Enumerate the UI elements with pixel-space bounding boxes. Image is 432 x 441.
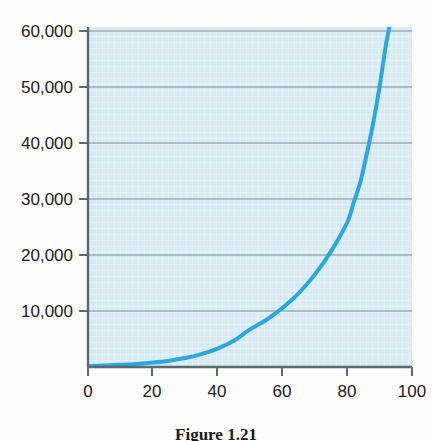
x-tick-label: 40 (208, 382, 227, 401)
y-tick-label: 20,000 (21, 246, 73, 265)
figure-container: 60,000 50,000 40,000 30,000 20,000 10,00… (0, 0, 432, 441)
x-axis-tick-labels: 0 20 40 60 80 100 (83, 382, 426, 401)
x-axis-ticks (88, 367, 412, 376)
y-tick-label: 60,000 (21, 22, 73, 41)
x-tick-label: 20 (143, 382, 162, 401)
y-axis-tick-labels: 60,000 50,000 40,000 30,000 20,000 10,00… (21, 22, 73, 321)
x-tick-label: 80 (338, 382, 357, 401)
y-tick-label: 10,000 (21, 302, 73, 321)
x-tick-label: 60 (273, 382, 292, 401)
x-tick-label: 100 (398, 382, 426, 401)
exponential-growth-chart: 60,000 50,000 40,000 30,000 20,000 10,00… (0, 0, 432, 441)
y-tick-label: 40,000 (21, 134, 73, 153)
figure-caption: Figure 1.21 (0, 425, 432, 441)
y-tick-label: 50,000 (21, 78, 73, 97)
x-tick-label: 0 (83, 382, 92, 401)
y-axis-ticks (79, 31, 88, 311)
y-tick-label: 30,000 (21, 190, 73, 209)
plot-area-background (88, 27, 412, 367)
